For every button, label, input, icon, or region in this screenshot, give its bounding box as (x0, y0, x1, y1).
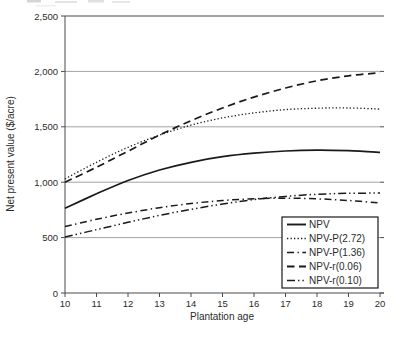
y-tick-label: 0 (53, 288, 58, 299)
x-tick-label: 18 (312, 298, 323, 309)
legend-label: NPV-r(0.06) (309, 261, 362, 272)
y-tick-label: 1,000 (34, 177, 58, 188)
figure: 05001,0001,5002,0002,5001011121314151617… (0, 0, 396, 341)
x-tick-label: 11 (92, 298, 102, 309)
y-tick-label: 2,000 (34, 66, 58, 77)
x-tick-label: 20 (375, 298, 386, 309)
series-curve-NPV-P(2.72) (65, 108, 380, 179)
x-tick-label: 19 (343, 298, 354, 309)
legend-label: NPV (309, 219, 330, 230)
y-tick-label: 500 (42, 232, 58, 243)
x-axis-title: Plantation age (190, 311, 254, 322)
npv-line-chart: 05001,0001,5002,0002,5001011121314151617… (0, 0, 396, 341)
legend-label: NPV-r(0.10) (309, 275, 362, 286)
legend-label: NPV-P(2.72) (309, 233, 365, 244)
x-tick-label: 17 (280, 298, 291, 309)
cropped-text-artifact (27, 0, 130, 7)
y-axis-title: Net present value ($/acre) (5, 96, 16, 212)
series-curve-NPV-r(0.06) (65, 73, 380, 183)
x-tick-label: 15 (217, 298, 228, 309)
legend-label: NPV-P(1.36) (309, 247, 365, 258)
x-tick-label: 10 (60, 298, 71, 309)
legend: NPV NPV-P(2.72) NPV-P(1.36) NPV-r(0.06) … (282, 217, 378, 288)
x-tick-label: 12 (123, 298, 134, 309)
data-series (65, 73, 380, 237)
x-tick-label: 16 (249, 298, 260, 309)
x-tick-label: 13 (154, 298, 165, 309)
y-tick-label: 2,500 (34, 11, 58, 22)
y-tick-label: 1,500 (34, 121, 58, 132)
x-tick-label: 14 (186, 298, 197, 309)
